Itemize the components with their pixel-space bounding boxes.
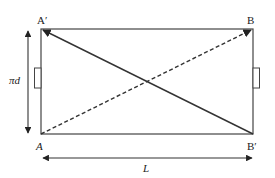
label-length: L bbox=[142, 162, 149, 174]
left-edge-tab bbox=[35, 68, 42, 88]
label-a-prime: A′ bbox=[37, 14, 47, 26]
dashed-diagonal-arrow bbox=[41, 30, 251, 134]
solid-diagonal-arrow bbox=[43, 30, 253, 134]
label-b: B bbox=[247, 14, 254, 26]
label-b-prime: B′ bbox=[247, 140, 257, 152]
label-a: A bbox=[35, 140, 43, 152]
label-pi-d: πd bbox=[9, 74, 21, 86]
diagram-canvas: A′ B A B′ πd L bbox=[0, 0, 275, 178]
right-edge-tab bbox=[253, 68, 260, 88]
